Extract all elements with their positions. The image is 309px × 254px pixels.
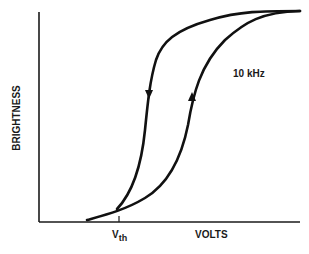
rising-branch-curve [87, 11, 300, 220]
frequency-annotation: 10 kHz [233, 68, 265, 79]
y-axis-label: BRIGHTNESS [11, 85, 22, 151]
x-axis-label: VOLTS [195, 229, 228, 240]
hysteresis-chart: 10 kHz BRIGHTNESS VOLTS Vth [0, 0, 309, 254]
vth-subscript: th [119, 233, 128, 243]
falling-branch-curve [117, 11, 300, 209]
vth-label: Vth [112, 229, 127, 243]
down-arrow-icon [145, 90, 153, 99]
